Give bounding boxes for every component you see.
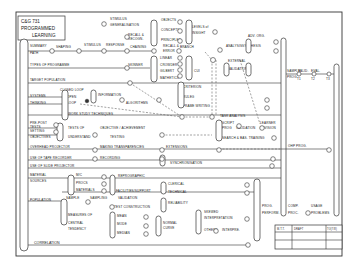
svg-text:PATH: PATH bbox=[30, 51, 38, 55]
svg-text:PERFORM.: PERFORM. bbox=[262, 211, 280, 215]
svg-text:NORMAL: NORMAL bbox=[163, 221, 177, 225]
svg-text:BRANCH: BRANCH bbox=[180, 45, 194, 49]
svg-text:LEVELS of: LEVELS of bbox=[192, 25, 209, 29]
svg-text:PROG.: PROG. bbox=[262, 204, 273, 208]
svg-text:DRAFT: DRAFT bbox=[294, 227, 304, 231]
svg-text:TASK ANALYSIS: TASK ANALYSIS bbox=[220, 114, 245, 118]
svg-text:LOOP: LOOP bbox=[67, 101, 76, 105]
svg-text:MEAN: MEAN bbox=[117, 214, 127, 218]
svg-text:TENDENCY: TENDENCY bbox=[68, 227, 86, 231]
svg-text:CLERICAL: CLERICAL bbox=[168, 182, 184, 186]
svg-text:TYPES OF PROGRAMME: TYPES OF PROGRAMME bbox=[30, 63, 70, 67]
svg-text:MEDIAN: MEDIAN bbox=[117, 231, 130, 235]
svg-text:EXTENSIONS: EXTENSIONS bbox=[166, 145, 187, 149]
svg-text:STIMULUS: STIMULUS bbox=[110, 17, 127, 21]
svg-text:SYNCHRONISATION: SYNCHRONISATION bbox=[170, 161, 202, 165]
svg-text:INFORMATION: INFORMATION bbox=[98, 93, 121, 97]
svg-text:PROBLEMS: PROBLEMS bbox=[311, 211, 329, 215]
svg-text:GENERALISATION: GENERALISATION bbox=[110, 23, 139, 27]
svg-text:LEARNER: LEARNER bbox=[260, 121, 276, 125]
svg-text:MATHETICS: MATHETICS bbox=[160, 76, 179, 80]
svg-text:TO(7/8): TO(7/8) bbox=[327, 227, 337, 231]
svg-text:CRITERION: CRITERION bbox=[183, 85, 201, 89]
title-programmed: PROGRAMMED bbox=[21, 26, 56, 31]
svg-text:INTERPRETATION: INTERPRETATION bbox=[204, 216, 233, 220]
svg-text:USAGE: USAGE bbox=[311, 204, 323, 208]
svg-text:MATERIALS: MATERIALS bbox=[76, 188, 95, 192]
svg-text:POPULATION: POPULATION bbox=[30, 198, 51, 202]
svg-text:STIMULUS: STIMULUS bbox=[84, 43, 101, 47]
title-code: C&G 731 bbox=[21, 19, 40, 24]
svg-text:EXTERNAL: EXTERNAL bbox=[228, 59, 246, 63]
svg-text:REPROGRAPHIC: REPROGRAPHIC bbox=[118, 174, 146, 178]
svg-text:RULEG: RULEG bbox=[183, 95, 195, 99]
svg-text:RELIABILITY: RELIABILITY bbox=[168, 201, 188, 205]
svg-text:PROG: PROG bbox=[222, 126, 232, 130]
svg-text:CHAINING: CHAINING bbox=[130, 45, 147, 49]
svg-text:WORK STUDY TECHNIQUES: WORK STUDY TECHNIQUES bbox=[68, 112, 113, 116]
svg-text:CUI: CUI bbox=[194, 69, 200, 73]
svg-text:INSIGHT: INSIGHT bbox=[192, 31, 206, 35]
svg-text:TEST CONSTRUCTION: TEST CONSTRUCTION bbox=[114, 205, 150, 209]
svg-text:T3: T3 bbox=[326, 77, 330, 81]
svg-text:RECORDING: RECORDING bbox=[100, 156, 121, 160]
svg-text:CORRELATION: CORRELATION bbox=[34, 241, 60, 245]
svg-text:MODE: MODE bbox=[117, 222, 127, 226]
svg-text:OBJECTIVES: OBJECTIVES bbox=[30, 135, 51, 139]
svg-text:SUMMARY: SUMMARY bbox=[30, 44, 47, 48]
svg-text:OPEN: OPEN bbox=[67, 95, 76, 99]
svg-text:SKEWED: SKEWED bbox=[204, 210, 219, 214]
svg-text:GILBERT: GILBERT bbox=[160, 69, 174, 73]
svg-text:TESTS OF: TESTS OF bbox=[68, 126, 84, 130]
svg-text:SETTING: SETTING bbox=[30, 129, 45, 133]
svg-text:MATERIAL: MATERIAL bbox=[30, 173, 47, 177]
svg-text:COMP.: COMP. bbox=[288, 204, 299, 208]
svg-text:TECHNICAL: TECHNICAL bbox=[168, 190, 187, 194]
svg-text:PROC.: PROC. bbox=[288, 211, 299, 215]
svg-text:OBJECTIVE / ACHIEVEMENT: OBJECTIVE / ACHIEVEMENT bbox=[100, 126, 145, 130]
svg-text:RESPONSE: RESPONSE bbox=[106, 43, 124, 47]
draft-table: M.T.T. DRAFT TO(7/8) bbox=[275, 225, 342, 249]
svg-text:TESTING: TESTING bbox=[110, 135, 125, 139]
svg-text:SHAPING: SHAPING bbox=[56, 45, 71, 49]
svg-text:CROWDER: CROWDER bbox=[160, 63, 178, 67]
svg-text:SEARCH & BAS. TRAINING: SEARCH & BAS. TRAINING bbox=[222, 136, 265, 140]
svg-text:PROCS: PROCS bbox=[76, 181, 88, 185]
svg-text:SOURCES: SOURCES bbox=[30, 179, 46, 183]
svg-text:CENTRAL: CENTRAL bbox=[68, 221, 84, 225]
svg-text:FACILITIES/SUPPORT: FACILITIES/SUPPORT bbox=[116, 189, 151, 193]
svg-text:RECOGN.: RECOGN. bbox=[128, 37, 144, 41]
svg-text:ERROR: ERROR bbox=[163, 49, 176, 53]
svg-text:SKINNER: SKINNER bbox=[128, 63, 143, 67]
svg-text:SAMPLE: SAMPLE bbox=[66, 196, 79, 200]
svg-text:MEASURES OF: MEASURES OF bbox=[68, 213, 92, 217]
svg-text:ADV. ORG.: ADV. ORG. bbox=[248, 34, 265, 38]
svg-text:SCRIPT: SCRIPT bbox=[222, 121, 234, 125]
svg-text:SYNTHESIS: SYNTHESIS bbox=[242, 44, 261, 48]
svg-text:OVERHEAD PROJECTOR: OVERHEAD PROJECTOR bbox=[30, 145, 71, 149]
svg-text:USE OF TAPE RECORDER: USE OF TAPE RECORDER bbox=[30, 156, 72, 160]
svg-text:T2: T2 bbox=[311, 77, 315, 81]
svg-text:RECALL &: RECALL & bbox=[163, 44, 180, 48]
svg-text:SAMPLING: SAMPLING bbox=[90, 196, 108, 200]
svg-text:SYSTEMS: SYSTEMS bbox=[30, 94, 46, 98]
svg-text:OBJECTS: OBJECTS bbox=[161, 18, 176, 22]
svg-text:INTERPRE.: INTERPRE. bbox=[222, 228, 240, 232]
svg-text:UNDERSTAND: UNDERSTAND bbox=[68, 135, 91, 139]
svg-text:LINEAR: LINEAR bbox=[160, 56, 173, 60]
svg-text:ANALYSIS: ANALYSIS bbox=[226, 44, 242, 48]
svg-text:M.T.T.: M.T.T. bbox=[277, 227, 285, 231]
merge-bar-1 bbox=[281, 38, 286, 216]
merge-bar-2 bbox=[334, 64, 339, 216]
svg-text:CONCEPTS: CONCEPTS bbox=[161, 28, 179, 32]
title-learning: LEARNING bbox=[32, 33, 56, 38]
svg-text:VALIDATION: VALIDATION bbox=[118, 196, 137, 200]
svg-text:ALGORITHMS: ALGORITHMS bbox=[126, 101, 148, 105]
svg-text:T1: T1 bbox=[297, 77, 301, 81]
svg-text:MAKING TRANSPARENCIES: MAKING TRANSPARENCIES bbox=[100, 145, 144, 149]
svg-text:CURVE: CURVE bbox=[163, 226, 175, 230]
svg-text:USE OF SLIDE PROJECTOR: USE OF SLIDE PROJECTOR bbox=[30, 164, 75, 168]
svg-text:THINKING: THINKING bbox=[30, 101, 46, 105]
title-block: C&G 731 PROGRAMMED LEARNING bbox=[18, 16, 65, 40]
svg-text:OHP PROG.: OHP PROG. bbox=[288, 144, 307, 148]
